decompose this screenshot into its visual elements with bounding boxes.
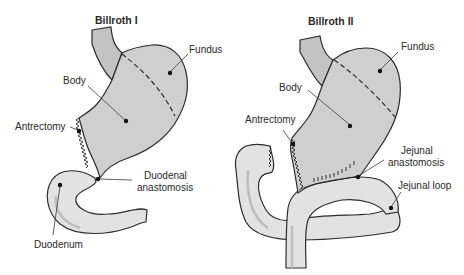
panel-billroth-1: Billroth I Fundus Body Antrectomy Duoden… [15,14,222,250]
label-duodenum: Duodenum [34,239,83,250]
panel-title-billroth-1: Billroth I [95,14,138,26]
antrectomy-marker [77,129,81,133]
label-antrectomy: Antrectomy [15,121,66,132]
label-anastomosis-2: anastomosis [137,182,193,193]
label-body: Body [63,75,86,86]
label-fundus-2: Fundus [401,41,434,52]
label-anastomosis-1: Duodenal [144,170,187,181]
label-body-2: Body [279,82,302,93]
body-marker-2 [348,124,352,128]
stomach-remnant-2 [291,48,401,193]
anastomosis-leader [98,179,132,180]
stomach-remnant [79,45,188,178]
label-fundus: Fundus [189,44,222,55]
panel-title-billroth-2: Billroth II [308,15,354,27]
billroth-diagram: Billroth I Fundus Body Antrectomy Duoden… [0,0,464,275]
label-anastomosis-2-line1: Jejunal [401,145,433,156]
anastomosis-marker-2 [356,175,360,179]
label-antrectomy-2: Antrectomy [245,114,296,125]
fundus-marker [168,71,172,75]
antrectomy-marker-2 [291,142,295,146]
jejunal-loop-marker [389,206,393,210]
duodenum-marker [58,183,62,187]
label-anastomosis-2-line2: anastomosis [388,157,444,168]
anastomosis-marker [96,177,100,181]
antrectomy-leader-2 [283,130,292,143]
panel-billroth-2: Billroth II Fundus Body [235,15,451,268]
body-marker [124,119,128,123]
label-jejunal-loop: Jejunal loop [398,180,452,191]
fundus-marker-2 [378,69,382,73]
